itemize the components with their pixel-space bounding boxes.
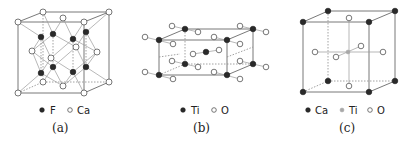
legend-filled-circle-icon [40, 108, 45, 113]
ca-atom [106, 9, 112, 15]
ca-atom [300, 19, 306, 25]
crystal-structures-figure: F Ca (a) [0, 0, 410, 141]
legend-label-ti: Ti [348, 105, 358, 116]
o-atom [263, 64, 269, 70]
ca-atom [15, 19, 21, 25]
legend-open-circle-icon [368, 108, 373, 113]
f-atom [70, 69, 76, 75]
legend-filled-circle-icon [306, 108, 311, 113]
o-atom [142, 69, 148, 75]
o-atom [190, 51, 196, 57]
o-atom [346, 15, 352, 21]
legend-label-ca: Ca [315, 105, 328, 116]
legend-label-f: F [50, 105, 56, 116]
ca-atom [392, 78, 398, 84]
o-atom [170, 41, 176, 47]
panel-b-caption: (b) [193, 121, 210, 135]
o-atom [263, 29, 269, 35]
panel-a-caption: (a) [52, 121, 69, 135]
ca-atom [81, 90, 87, 96]
ca-atom [60, 83, 66, 89]
panel-a-legend: F Ca [40, 105, 90, 116]
ca-atom [60, 15, 66, 21]
ti-atom [182, 61, 188, 67]
legend-open-circle-icon [212, 108, 217, 113]
o-atom [211, 34, 217, 40]
o-atom [169, 23, 175, 29]
ca-atom [300, 89, 306, 95]
ti-atom [203, 49, 209, 55]
o-atom [216, 47, 222, 53]
o-atom [169, 58, 175, 64]
panel-b-rutile: Ti O (b) [142, 23, 269, 135]
ti-atom [346, 50, 350, 54]
legend-label-o: O [221, 105, 229, 116]
panel-c-caption: (c) [339, 121, 355, 135]
ti-atom [250, 26, 256, 32]
ti-atom [224, 37, 230, 43]
ti-atom [156, 37, 162, 43]
legend-filled-circle-icon [181, 108, 186, 113]
f-atom [50, 64, 56, 70]
o-atom [346, 83, 352, 89]
ca-atom [94, 49, 100, 55]
o-atom [237, 23, 243, 29]
f-atom [50, 31, 56, 37]
ti-atom [182, 26, 188, 32]
ca-atom [15, 90, 21, 96]
o-atom [358, 43, 364, 49]
ti-atom [250, 61, 256, 67]
ti-atom [224, 72, 230, 78]
ca-atom [366, 19, 372, 25]
ca-atom [325, 8, 331, 14]
o-atom [170, 76, 176, 82]
ca-atom [325, 78, 331, 84]
panel-a-f-atoms [38, 29, 89, 76]
o-atom [195, 29, 201, 35]
legend-label-o: O [377, 105, 385, 116]
o-atom [237, 41, 243, 47]
ca-atom [392, 8, 398, 14]
legend-label-ti: Ti [190, 105, 200, 116]
ca-atom [81, 19, 87, 25]
f-atom [83, 29, 89, 35]
o-atom [380, 49, 386, 55]
ca-atom [29, 48, 35, 54]
ca-atom [106, 79, 112, 85]
ca-atom [40, 79, 46, 85]
f-atom [70, 36, 76, 42]
ca-atom [366, 89, 372, 95]
legend-gray-circle-icon [340, 108, 344, 112]
o-atom [142, 34, 148, 40]
o-atom [237, 58, 243, 64]
f-atom [38, 70, 44, 76]
panel-c-legend: Ca Ti O [306, 105, 385, 116]
f-atom [83, 64, 89, 70]
f-atom [38, 34, 44, 40]
o-atom [333, 54, 339, 60]
o-atom [312, 49, 318, 55]
panel-b-legend: Ti O [181, 105, 229, 116]
o-atom [195, 64, 201, 70]
o-atom [237, 76, 243, 82]
panel-c-perovskite: Ca Ti O (c) [300, 8, 398, 135]
ca-atom [48, 55, 54, 61]
ti-atom [156, 72, 162, 78]
ca-atom [73, 44, 79, 50]
legend-open-circle-icon [68, 108, 73, 113]
o-atom [211, 69, 217, 75]
ca-atom [40, 9, 46, 15]
panel-a-fluorite: F Ca (a) [15, 9, 112, 135]
legend-label-ca: Ca [77, 105, 90, 116]
